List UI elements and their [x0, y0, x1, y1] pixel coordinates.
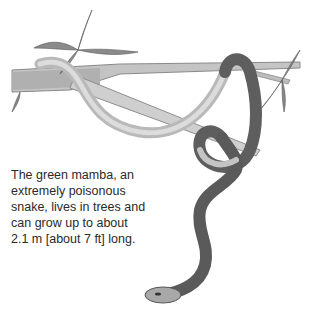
caption-line: extremely poisonous — [11, 183, 171, 199]
caption-line: can grow up to about — [11, 215, 171, 231]
green-mamba-illustration — [0, 0, 311, 318]
caption-line: snake, lives in trees and — [11, 199, 171, 215]
caption-line: The green mamba, an — [11, 167, 171, 183]
snake-head — [145, 287, 181, 303]
caption-line: 2.1 m [about 7 ft] long. — [11, 231, 171, 247]
caption: The green mamba, an extremely poisonous … — [11, 167, 171, 247]
